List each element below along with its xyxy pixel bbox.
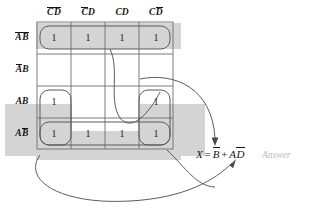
column-header-3: CD [139,8,173,18]
arrowhead-lower [230,159,236,168]
kmap-cell-r0c2: 1 [105,33,139,43]
kmap-cell-r0c3: 1 [139,33,173,43]
column-header-1-c: C [81,8,88,18]
kmap-cell-r3c2: 1 [105,129,139,139]
equation-lhs: X [196,148,203,160]
equation-term-1-b: B [212,148,220,160]
column-header-2-d: D [122,7,129,17]
shaded-regions [5,23,205,160]
column-header-2: CD [105,8,139,18]
group-loops [40,26,170,145]
result-equation: X=B+AD [196,148,245,160]
equation-term-2-d: D [236,148,245,160]
column-header-3-d: D [155,8,162,18]
row-header-2: AB [5,97,39,107]
row-header-0-b: B [22,33,29,43]
kmap-cell-r2c0: 1 [37,97,71,107]
arrow-curve-from-top-group [110,49,160,123]
row-header-1-a: A [15,65,22,75]
equation-plus: + [220,148,229,160]
pointer-arrows [36,49,236,201]
row-header-1: AB [5,65,39,75]
column-header-0: CD [37,8,71,18]
answer-label: Answer [262,150,291,160]
kmap-cell-r3c3: 1 [139,129,173,139]
column-header-0-d: D [54,8,61,18]
kmap-cell-r0c1: 1 [71,33,105,43]
column-header-1: CD [71,8,105,18]
column-header-1-d: D [88,7,95,17]
kmap-cell-r2c3: 1 [139,97,173,107]
equation-equals: = [203,148,212,160]
row-header-2-b: B [22,96,28,106]
karnaugh-map-figure: CD CD CD CD AB AB AB AB 1 1 1 1 1 1 1 1 … [0,0,314,212]
arrow-curve-from-bottom-left [36,155,232,201]
kmap-cell-r3c0: 1 [37,129,71,139]
kmap-cell-r0c0: 1 [37,33,71,43]
column-header-0-c: C [47,8,54,18]
row-header-0: AB [5,33,39,43]
row-header-3: AB [5,129,39,139]
row-header-3-b: B [22,129,29,139]
kmap-cell-r3c1: 1 [71,129,105,139]
row-header-0-a: A [15,33,22,43]
arrowhead-upper [212,137,219,146]
row-header-1-b: B [22,64,28,74]
